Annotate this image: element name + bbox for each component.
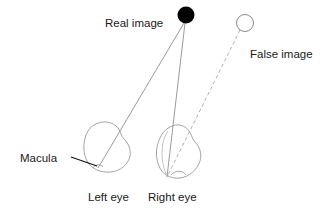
diagram-canvas: Real image False image Macula Left eye R… — [0, 0, 328, 212]
label-false-image: False image — [250, 48, 313, 60]
right-eye-macula-bump — [171, 171, 186, 175]
ray-false-to-right-eye — [167, 30, 240, 177]
label-left-eye: Left eye — [88, 191, 129, 203]
ray-real-to-right-eye — [167, 23, 185, 177]
right-eye-group — [156, 125, 200, 178]
right-eye-outline — [156, 125, 200, 178]
label-real-image: Real image — [105, 17, 163, 29]
ray-group — [98, 23, 240, 177]
ray-real-to-left-eye — [98, 23, 184, 168]
left-eye-group — [84, 122, 130, 172]
left-eye-outline — [84, 122, 130, 172]
real-image-marker — [178, 7, 195, 24]
label-right-eye: Right eye — [148, 191, 197, 203]
binocular-vision-diagram: Real image False image Macula Left eye R… — [0, 0, 328, 212]
macula-leader-line — [71, 157, 97, 166]
label-macula: Macula — [20, 152, 58, 164]
right-eye-inner-arc — [162, 131, 168, 174]
macula-leader-group — [71, 157, 97, 166]
false-image-marker — [237, 15, 254, 32]
